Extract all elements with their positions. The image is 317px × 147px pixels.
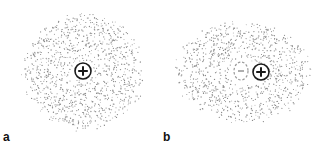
positive-charge-icon — [253, 64, 269, 80]
panel-label-a: a — [3, 131, 10, 143]
diagram-canvas — [0, 0, 317, 147]
positive-charge-icon — [75, 63, 91, 79]
panel-a-symmetric-cloud — [21, 13, 143, 131]
negative-charge-center-icon — [234, 62, 248, 80]
panel-b-polarized-cloud — [175, 21, 311, 123]
panel-label-b: b — [163, 131, 170, 143]
